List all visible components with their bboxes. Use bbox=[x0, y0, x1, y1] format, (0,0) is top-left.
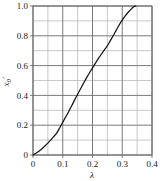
x-tick-label: 0.1 bbox=[57, 159, 68, 169]
y-tick-label: 0.6 bbox=[17, 61, 29, 71]
x-tick-label: 0.2 bbox=[87, 159, 98, 169]
y-tick-label: 0 bbox=[24, 150, 29, 160]
y-tick-label: 1.0 bbox=[17, 1, 29, 11]
chart-figure: 00.10.20.30.4 00.20.40.60.81.0 λ x0′ bbox=[0, 0, 163, 181]
x-tick-label: 0 bbox=[31, 159, 36, 169]
y-tick-label: 0.8 bbox=[17, 31, 29, 41]
y-tick-label: 0.2 bbox=[17, 120, 28, 130]
x-axis-title: λ bbox=[89, 170, 94, 180]
y-tick-label: 0.4 bbox=[17, 91, 29, 101]
x-tick-label: 0.3 bbox=[117, 159, 129, 169]
chart-canvas: 00.10.20.30.4 00.20.40.60.81.0 λ x0′ bbox=[0, 0, 163, 181]
x-tick-label: 0.4 bbox=[146, 159, 158, 169]
x-axis-title-text: λ bbox=[89, 170, 94, 180]
